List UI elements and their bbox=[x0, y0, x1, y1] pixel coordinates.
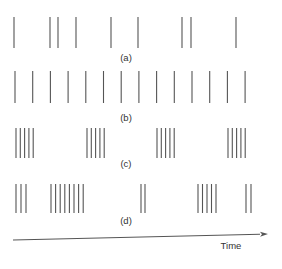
row-label: (a) bbox=[120, 52, 132, 63]
spike-row-c: (c) bbox=[16, 128, 245, 169]
spike-train-diagram: (a)(b)(c)(d) Time bbox=[0, 0, 282, 269]
spike-row-b: (b) bbox=[15, 71, 245, 123]
spike-rows: (a)(b)(c)(d) bbox=[14, 17, 251, 226]
time-axis-label: Time bbox=[221, 240, 242, 251]
spike-row-a: (a) bbox=[14, 17, 236, 63]
arrowhead-icon bbox=[260, 232, 268, 237]
spike-row-d: (d) bbox=[16, 184, 251, 226]
row-label: (b) bbox=[120, 112, 132, 123]
time-axis: Time bbox=[13, 232, 268, 251]
row-label: (d) bbox=[120, 215, 132, 226]
row-label: (c) bbox=[120, 158, 131, 169]
